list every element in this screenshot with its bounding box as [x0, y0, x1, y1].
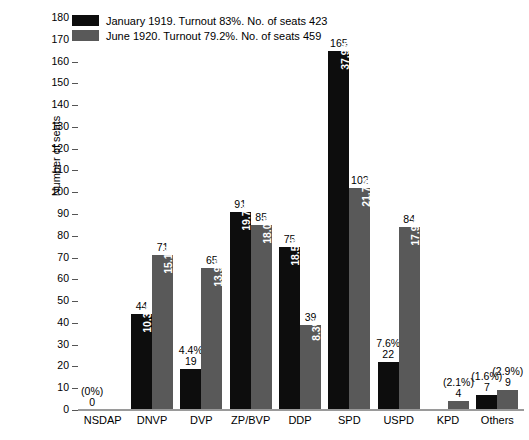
y-axis-tick-label: 30 [57, 338, 69, 350]
bar-slot: 227.6% [378, 18, 399, 410]
y-axis-tick-label: 50 [57, 294, 69, 306]
bar[interactable]: 37.9% [328, 51, 349, 410]
y-axis-tick-label: 110 [52, 163, 69, 175]
bar-group: 0(0%) [78, 18, 127, 410]
legend-swatch-icon [72, 30, 99, 41]
bar-group: 227.6%8417.9% [374, 18, 423, 410]
y-axis-tick-label: 90 [57, 207, 69, 219]
y-axis-tick-label: 180 [51, 11, 69, 23]
bar-slot: 9(2.9%) [497, 18, 518, 410]
bar-slot: 194.4% [180, 18, 201, 410]
x-axis-label: SPD [338, 414, 361, 426]
bar-percent-label: 7.6% [376, 338, 400, 349]
bar[interactable] [180, 369, 201, 410]
bar-slot: 398.3% [300, 18, 321, 410]
bar-percent-label: (2.1%) [443, 377, 474, 388]
bar-percent-label: 8.3% [310, 317, 322, 341]
bar-percent-label: 13.9% [212, 258, 224, 287]
bar-value-label: 4 [456, 388, 462, 399]
y-axis-tick-label: 100 [51, 185, 69, 197]
bar-slot: 8417.9% [399, 18, 420, 410]
x-axis-label: ZP/BVP [231, 414, 270, 426]
bar[interactable]: 8.3% [300, 325, 321, 410]
legend-item: June 1920. Turnout 79.2%. No. of seats 4… [72, 29, 327, 42]
bar-slot: 4410.3% [131, 18, 152, 410]
bar-slot: 6513.9% [201, 18, 222, 410]
bar-group: 7(1.6%)9(2.9%) [473, 18, 522, 410]
bar[interactable] [378, 362, 399, 410]
bar-slot: 16537.9% [328, 18, 349, 410]
x-axis-label: DVP [190, 414, 213, 426]
bar[interactable]: 17.9% [399, 227, 420, 410]
y-axis-tick-label: 130 [51, 120, 69, 132]
bar-group: 194.4%6513.9% [177, 18, 226, 410]
bar-value-label: 9 [505, 377, 511, 388]
legend-item-label: January 1919. Turnout 83%. No. of seats … [106, 15, 327, 27]
y-axis-tick-label: 140 [51, 98, 69, 110]
bar-percent-label: 4.4% [179, 345, 203, 356]
bar-group: 7518.5%398.3% [275, 18, 324, 410]
bar-percent-label: 18.0% [261, 214, 273, 243]
legend-swatch-icon [72, 15, 99, 26]
bar-group: 4410.3%7115.1% [127, 18, 176, 410]
bar[interactable]: 13.9% [201, 268, 222, 410]
bar-value-label: 19 [185, 356, 197, 367]
x-axis-label: KPD [437, 414, 460, 426]
y-axis-tick-label: 170 [51, 33, 69, 45]
legend-item: January 1919. Turnout 83%. No. of seats … [72, 14, 327, 27]
bar-slot [103, 18, 124, 410]
bar-slot: 0(0%) [82, 18, 103, 410]
y-axis-tick-label: 160 [51, 55, 69, 67]
x-axis-label: NSDAP [84, 414, 122, 426]
y-axis-tick-label: 150 [51, 76, 69, 88]
y-axis-tick-label: 120 [51, 142, 69, 154]
bar-percent-label: (0%) [81, 386, 103, 397]
bar-percent-label: 17.9% [409, 216, 421, 245]
bar-percent-label: 21.7% [360, 177, 372, 206]
bar-slot: 10221.7% [349, 18, 370, 410]
bar-chart: Number of seats 180170160150140130120110… [0, 0, 529, 440]
y-axis-tick-label: 40 [57, 316, 69, 328]
bar-slot: 7(1.6%) [476, 18, 497, 410]
bar-percent-label: (2.9%) [492, 366, 523, 377]
bar-value-label: 0 [89, 397, 95, 408]
bar-slot: 7115.1% [152, 18, 173, 410]
y-axis-tick-label: 60 [57, 272, 69, 284]
bar[interactable]: 10.3% [131, 314, 152, 410]
x-axis-label: Others [481, 414, 514, 426]
y-axis-tick-label: 80 [57, 229, 69, 241]
bar[interactable] [497, 390, 518, 410]
bar[interactable]: 18.5% [279, 247, 300, 410]
x-axis-baseline [78, 409, 524, 411]
chart-legend: January 1919. Turnout 83%. No. of seats … [72, 14, 327, 44]
bar[interactable] [476, 395, 497, 410]
bar-value-label: 22 [382, 349, 394, 360]
bar-percent-label: 15.1% [162, 245, 174, 274]
plot-area: 0(0%)4410.3%7115.1%194.4%6513.9%9119.7%8… [78, 18, 522, 410]
bar[interactable]: 19.7% [230, 212, 251, 410]
bar-slot: 7518.5% [279, 18, 300, 410]
y-axis-tick-label: 20 [57, 359, 69, 371]
bar-slot [427, 18, 448, 410]
bar-group: 4(2.1%) [423, 18, 472, 410]
bar[interactable]: 18.0% [251, 225, 272, 410]
bar-group: 9119.7%8518.0% [226, 18, 275, 410]
x-axis-label: USPD [383, 414, 414, 426]
bar-slot: 9119.7% [230, 18, 251, 410]
bar[interactable]: 15.1% [152, 255, 173, 410]
bar-slot: 4(2.1%) [448, 18, 469, 410]
x-axis-label: DNVP [137, 414, 168, 426]
bar[interactable]: 21.7% [349, 188, 370, 410]
bar-group: 16537.9%10221.7% [325, 18, 374, 410]
legend-item-label: June 1920. Turnout 79.2%. No. of seats 4… [106, 30, 321, 42]
y-axis-tick-label: 0 [63, 403, 69, 415]
y-axis-tick-label: 10 [57, 381, 69, 393]
x-axis-label: DDP [288, 414, 311, 426]
bar-value-label: 7 [484, 382, 490, 393]
bar-slot: 8518.0% [251, 18, 272, 410]
y-axis-tick-label: 70 [57, 251, 69, 263]
